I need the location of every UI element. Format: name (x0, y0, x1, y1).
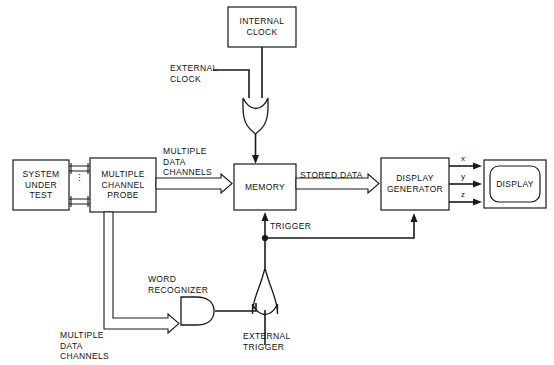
display-generator-label: DISPLAY GENERATOR (381, 173, 449, 194)
arrowhead-axis-x (473, 163, 482, 170)
bus-multiple-data-channels-to-word-recognizer (104, 212, 179, 333)
external-clock-label: EXTERNAL CLOCK (170, 63, 230, 84)
word-recognizer-and-gate (181, 297, 214, 325)
axis-x-label: x (452, 154, 474, 165)
connector-sut-probe-top (69, 166, 90, 171)
display-label: DISPLAY (490, 179, 540, 190)
arrowhead-clock-to-memory (252, 155, 259, 164)
system-under-test-label: SYSTEM UNDER TEST (13, 169, 69, 201)
block-diagram-canvas: INTERNAL CLOCK EXTERNAL CLOCK SYSTEM UND… (0, 0, 554, 365)
multiple-data-channels-bottom-label: MULTIPLE DATA CHANNELS (60, 330, 130, 362)
arrowhead-trigger-to-display-generator (411, 213, 418, 222)
connector-sut-probe-bottom-caps (71, 196, 88, 207)
internal-clock-label: INTERNAL CLOCK (228, 16, 296, 37)
word-recognizer-label: WORD RECOGNIZER (148, 274, 228, 295)
arrowhead-trigger-to-memory (262, 212, 269, 221)
arrowhead-axis-z (473, 199, 482, 206)
stored-data-label: STORED DATA (300, 170, 380, 181)
axis-z-label: z (452, 190, 474, 201)
memory-label: MEMORY (234, 182, 296, 193)
multiple-data-channels-top-label: MULTIPLE DATA CHANNELS (163, 146, 233, 178)
axis-y-label: y (452, 172, 474, 183)
external-trigger-label: EXTERNAL TRIGGER (243, 331, 305, 352)
connector-sut-probe-bottom (69, 199, 90, 204)
trigger-label: TRIGGER (270, 221, 330, 232)
clock-or-gate (243, 98, 268, 134)
multiple-channel-probe-label: MULTIPLE CHANNEL PROBE (90, 169, 156, 201)
arrowhead-axis-y (473, 181, 482, 188)
channel-ellipsis: ⋮ (68, 176, 90, 181)
wire-word-recognizer-to-or-gate (215, 303, 256, 311)
